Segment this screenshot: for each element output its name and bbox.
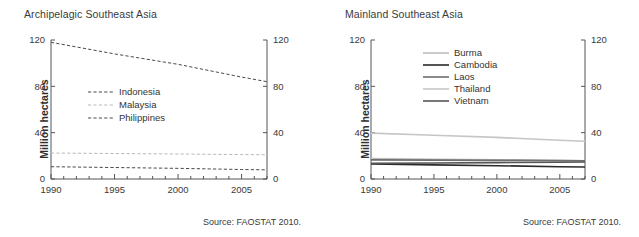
x-tick-label: 1990 — [360, 184, 381, 195]
series-line-vietnam — [371, 162, 585, 163]
series-line-laos — [371, 160, 585, 161]
series-line-thailand — [371, 133, 585, 141]
y-tick-label-left: 80 — [354, 81, 365, 92]
x-tick-label: 2000 — [486, 184, 507, 195]
y-tick-label-left: 40 — [34, 127, 45, 138]
y-tick-label-left: 120 — [29, 34, 45, 45]
x-tick-label: 1990 — [40, 184, 61, 195]
panel-archipelagic: Archipelagic Southeast Asia Million hect… — [0, 0, 319, 237]
y-tick-label-right: 120 — [591, 34, 607, 45]
legend-label-malaysia: Malaysia — [119, 99, 157, 110]
figure-two-panel-line-charts: Archipelagic Southeast Asia Million hect… — [0, 0, 639, 237]
y-tick-label-left: 120 — [349, 34, 365, 45]
x-tick-label: 2000 — [167, 184, 188, 195]
legend-label-thailand: Thailand — [454, 83, 490, 94]
y-tick-label-right: 40 — [591, 127, 602, 138]
y-tick-label-right: 80 — [591, 81, 602, 92]
x-tick-label: 2005 — [231, 184, 252, 195]
y-tick-label-left: 0 — [40, 173, 45, 184]
x-tick-label: 1995 — [423, 184, 444, 195]
source-note-right: Source: FAOSTAT 2010. — [523, 217, 621, 227]
x-tick-label: 1995 — [104, 184, 125, 195]
y-tick-label-right: 0 — [591, 173, 596, 184]
legend-label-indonesia: Indonesia — [119, 86, 161, 97]
y-tick-label-right: 80 — [273, 81, 284, 92]
x-tick-label: 2005 — [549, 184, 570, 195]
chart-archipelagic: 00404080801201201990199520002005Indonesi… — [0, 0, 319, 237]
source-note-left: Source: FAOSTAT 2010. — [203, 217, 301, 227]
y-tick-label-left: 80 — [34, 81, 45, 92]
legend-label-laos: Laos — [454, 71, 475, 82]
legend-label-cambodia: Cambodia — [454, 59, 498, 70]
panel-mainland: Mainland Southeast Asia Million hectares… — [319, 0, 639, 237]
y-tick-label-left: 0 — [360, 173, 365, 184]
y-tick-label-right: 40 — [273, 127, 284, 138]
chart-mainland: 00404080801201201990199520002005BurmaCam… — [319, 0, 639, 237]
legend-label-burma: Burma — [454, 47, 483, 58]
y-tick-label-left: 40 — [354, 127, 365, 138]
y-tick-label-right: 0 — [273, 173, 278, 184]
series-line-philippines — [51, 167, 267, 170]
series-line-cambodia — [371, 164, 585, 167]
y-tick-label-right: 120 — [273, 34, 289, 45]
legend-label-vietnam: Vietnam — [454, 95, 489, 106]
series-line-malaysia — [51, 153, 267, 155]
legend-label-philippines: Philippines — [119, 112, 165, 123]
series-line-indonesia — [51, 42, 267, 81]
